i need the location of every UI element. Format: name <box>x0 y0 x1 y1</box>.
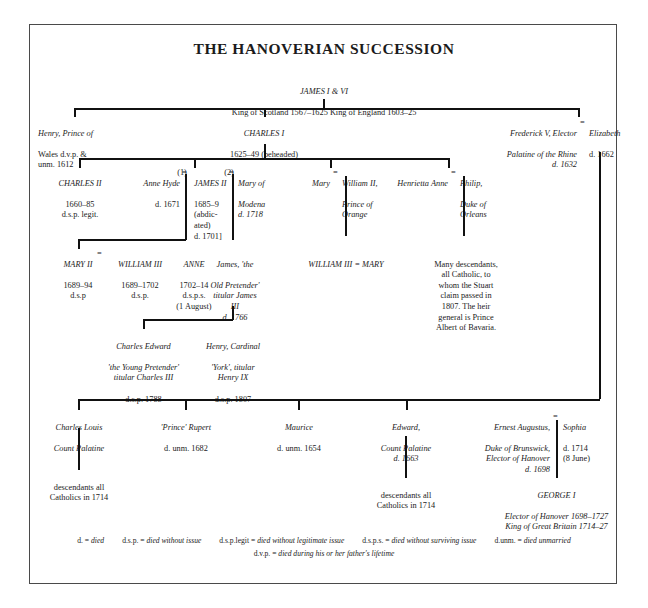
person-name: Edward, <box>392 423 420 432</box>
legend-meaning: died without issue <box>146 536 201 545</box>
connector-charles-i-stem <box>264 144 266 159</box>
person-detail: Elector of Hanover 1698–1727 King of Gre… <box>505 512 608 532</box>
person-name: JAMES I & VI <box>300 87 348 96</box>
person-name: Henry, Prince of <box>38 129 93 138</box>
person-name: 'Prince' Rupert <box>161 423 211 432</box>
person-detail: d. unm. 1682 <box>164 444 208 453</box>
legend-entry: d.v.p. = died during his or her father's… <box>254 548 395 559</box>
legend-meaning: died without legitimate issue <box>257 536 344 545</box>
person-sophia: Sophia d. 1714 (8 June) <box>563 412 623 465</box>
person-charles-ii: CHARLES II 1660–85 d.s.p. legit. <box>36 168 124 221</box>
person-old-pretender: James, 'the Old Pretender' titular James… <box>196 249 274 323</box>
page-title: THE HANOVERIAN SUCCESSION <box>0 40 648 58</box>
marriage-symbol-frederick-elizabeth: = <box>580 118 585 129</box>
marriage-symbol-henrietta-philip: = <box>451 168 456 179</box>
connector-drop-henrietta-anne <box>448 158 450 168</box>
person-detail: 'York', titular Henry IX <box>211 363 254 383</box>
person-prince-rupert: 'Prince' Rupert d. unm. 1682 <box>140 412 232 454</box>
connector-frederick-elizabeth-descent <box>599 152 601 399</box>
person-name: Sophia <box>563 423 586 432</box>
marriage-symbol-mary-ii-william-iii: = <box>97 249 102 260</box>
person-name: Mary <box>312 179 330 188</box>
person-name: Elizabeth <box>589 129 620 138</box>
connector-anne-hyde-issue <box>185 174 187 240</box>
legend-abbr: d.unm. <box>494 536 515 545</box>
legend-row-2: d.v.p. = died during his or her father's… <box>0 548 648 559</box>
person-name: Charles Edward <box>116 342 170 351</box>
genealogy-chart-page: THE HANOVERIAN SUCCESSION JAMES I & VI K… <box>0 0 648 608</box>
legend-entry: d.unm. = died unmarried <box>494 535 570 546</box>
person-henrietta-anne: Henrietta Anne <box>372 168 448 189</box>
person-george-i: GEORGE I Elector of Hanover 1698–1727 Ki… <box>481 480 632 533</box>
legend-meaning: died during his or her father's lifetime <box>278 549 394 558</box>
person-philip-duke-orleans: Philip, Duke of Orleans <box>460 168 518 221</box>
legend-entry: d.s.p.legit = died without legitimate is… <box>219 535 344 546</box>
person-detail: d. 1662 <box>589 150 614 159</box>
note-text: descendants all Catholics in 1714 <box>377 491 436 511</box>
person-william-iii-and-mary: WILLIAM III = MARY <box>300 249 392 270</box>
person-anne-hyde: Anne Hyde d. 1671 <box>128 168 180 210</box>
person-name: Anne Hyde <box>143 179 180 188</box>
note-descendants-edward: descendants all Catholics in 1714 <box>358 480 454 512</box>
person-detail: 1689–1702 d.s.p. <box>121 281 158 301</box>
note-text: descendants all Catholics in 1714 <box>50 483 109 503</box>
person-name: CHARLES I <box>244 129 284 138</box>
connector-drop-mary-princess <box>330 158 332 168</box>
person-name: Henry, Cardinal <box>206 342 260 351</box>
note-descendants-charles-louis: descendants all Catholics in 1714 <box>31 472 127 504</box>
connector-drop-frederick <box>578 108 580 117</box>
connector-drop-charles-i <box>264 108 266 117</box>
person-name: MARY II <box>63 260 92 269</box>
legend-entry: d.s.p.s. = died without surviving issue <box>362 535 476 546</box>
connector-drop-mary-ii <box>78 239 80 249</box>
connector-charles-i-children-bar <box>79 158 450 160</box>
note-text: Many descendants, all Catholic, to whom … <box>434 260 498 333</box>
legend-abbr: d.s.p.legit <box>219 536 249 545</box>
connector-ernest-sophia-issue <box>556 420 558 478</box>
legend-equals: = <box>516 536 524 545</box>
legend-entry: d.s.p. = died without issue <box>122 535 201 546</box>
legend-abbr: d.s.p.s. <box>362 536 383 545</box>
note-stuart-descendants: Many descendants, all Catholic, to whom … <box>420 249 512 334</box>
person-detail: Palatine of the Rhine d. 1632 <box>507 150 577 170</box>
person-name: GEORGE I <box>537 491 575 500</box>
legend-abbr: d.s.p. <box>122 536 138 545</box>
person-detail: 'the Young Pretender' titular Charles II… <box>108 363 179 383</box>
legend-abbr: d.v.p. <box>254 549 271 558</box>
person-name: Maurice <box>285 423 313 432</box>
person-elizabeth: Elizabeth d. 1662 <box>589 118 648 160</box>
connector-drop-charles-ii <box>79 158 81 168</box>
connector-drop-edward-palatine <box>406 399 408 410</box>
connector-james-children-bar <box>74 108 579 110</box>
person-detail: d. unm. 1654 <box>277 444 321 453</box>
connector-palatine-children-bar <box>78 399 600 401</box>
connector-drop-charles-edward <box>143 319 145 329</box>
person-henry-prince-of-wales: Henry, Prince of Wales d.v.p. & unm. 161… <box>38 118 148 171</box>
person-detail: 1689–94 d.s.p <box>63 281 92 301</box>
person-detail: 1660–85 d.s.p. legit. <box>62 200 99 220</box>
connector-drop-maurice <box>298 399 300 410</box>
person-detail: d. 1671 <box>155 200 180 209</box>
connector-mary-william-ii-issue <box>345 176 347 236</box>
connector-edward-palatine-issue <box>405 436 407 478</box>
person-name: Ernest Augustus, <box>494 423 550 432</box>
person-detail: Modena d. 1718 <box>238 200 265 220</box>
legend-row-1: d. = diedd.s.p. = died without issued.s.… <box>0 535 648 546</box>
person-mary-of-modena: Mary of Modena d. 1718 <box>238 168 294 221</box>
connector-mary-modena-issue <box>232 174 234 240</box>
person-henry-cardinal-york: Henry, Cardinal 'York', titular Henry IX… <box>190 331 276 405</box>
person-name: WILLIAM III = MARY <box>308 260 383 269</box>
legend-entry: d. = died <box>77 535 104 546</box>
marriage-symbol-mary-william-ii: = <box>333 168 338 179</box>
person-name: Henrietta Anne <box>397 179 448 188</box>
person-name: Frederick V, Elector <box>510 129 577 138</box>
legend-meaning: died unmarried <box>524 536 571 545</box>
person-detail: 1685–9 (abdic- ated) d. 1701] <box>194 200 222 241</box>
person-james-i: JAMES I & VI King of Scotland 1567–1625 … <box>174 76 474 118</box>
person-name: CHARLES II <box>58 179 101 188</box>
person-ernest-augustus: Ernest Augustus, Duke of Brunswick, Elec… <box>453 412 550 476</box>
person-frederick-v: Frederick V, Elector Palatine of the Rhi… <box>458 118 577 171</box>
legend-equals: = <box>83 536 91 545</box>
person-detail: Old Pretender' titular James III d. 1766 <box>210 281 259 322</box>
person-name: James, 'the <box>217 260 254 269</box>
